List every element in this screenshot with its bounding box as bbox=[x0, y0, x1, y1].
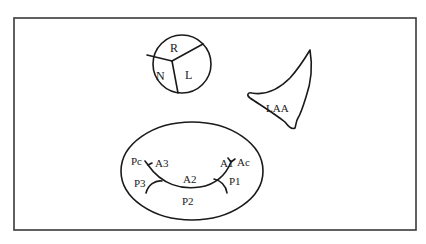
scallop-label-a2: A2 bbox=[183, 173, 196, 185]
commissure-label-pc: Pc bbox=[131, 155, 142, 167]
commissure-label-ac: Ac bbox=[237, 156, 250, 168]
scallop-label-p1: P1 bbox=[229, 175, 241, 187]
cusp-label-noncoronary: N bbox=[156, 69, 165, 83]
scallop-label-p2: P2 bbox=[182, 195, 194, 207]
cardiac-diagram: R L N LAA Pc Ac A1 A2 A3 P1 P2 P3 bbox=[0, 0, 426, 244]
cusp-label-left: L bbox=[185, 68, 192, 82]
laa-label: LAA bbox=[266, 102, 289, 114]
scallop-label-a3: A3 bbox=[155, 157, 169, 169]
cusp-label-right: R bbox=[170, 41, 178, 55]
scallop-label-p3: P3 bbox=[134, 177, 146, 189]
scallop-label-a1: A1 bbox=[220, 157, 233, 169]
